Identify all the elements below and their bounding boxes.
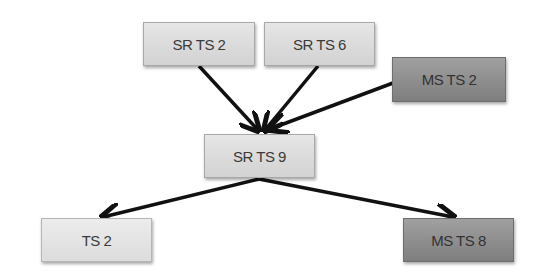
node-sr-ts-2: SR TS 2 — [143, 22, 255, 66]
node-ms-ts-2: MS TS 2 — [392, 57, 506, 102]
node-sr-ts-6: SR TS 6 — [264, 22, 375, 66]
node-ts-2: TS 2 — [41, 218, 152, 262]
node-sr-ts-9: SR TS 9 — [204, 134, 315, 178]
arrow-msts2-to-srts9 — [270, 83, 393, 129]
node-ms-ts-8: MS TS 8 — [403, 218, 514, 262]
arrow-srts2-to-srts9 — [199, 66, 258, 130]
arrow-srts9-to-ts2 — [103, 179, 259, 217]
arrow-srts9-to-msts8 — [259, 179, 453, 217]
